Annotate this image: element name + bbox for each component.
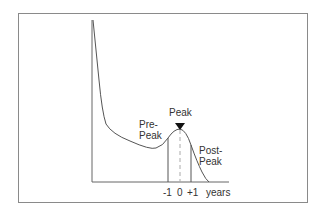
x-tick-minus-1: -1	[163, 187, 172, 198]
x-axis-unit-label: years	[206, 187, 230, 198]
x-tick-plus-1: +1	[187, 187, 198, 198]
pre-peak-label: Pre- Peak	[139, 119, 162, 141]
peak-marker-icon	[175, 123, 185, 130]
post-peak-label: Post- Peak	[199, 145, 222, 167]
peak-label: Peak	[169, 107, 192, 118]
lifecycle-curve	[93, 20, 209, 182]
diagram-canvas	[0, 0, 321, 216]
x-tick-zero: 0	[177, 187, 183, 198]
